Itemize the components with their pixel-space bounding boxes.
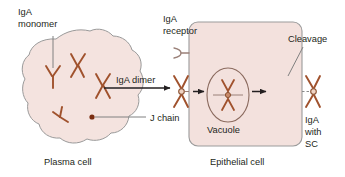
label-epithelial-cell: Epithelial cell bbox=[210, 157, 264, 167]
diagram-canvas: IgA monomer IgA receptor IgA dimer J cha… bbox=[0, 0, 345, 177]
label-j-chain: J chain bbox=[150, 113, 179, 123]
label-iga-with-sc-line1: IgA bbox=[305, 115, 320, 125]
iga-transcytosis-diagram: IgA monomer IgA receptor IgA dimer J cha… bbox=[0, 0, 345, 177]
epithelial-cell-group bbox=[189, 22, 302, 146]
plasma-cell-group bbox=[22, 29, 143, 143]
label-plasma-cell: Plasma cell bbox=[44, 157, 92, 167]
epithelial-cell-body bbox=[189, 22, 302, 146]
plasma-cell-body bbox=[22, 29, 143, 143]
label-iga-with-sc-line3: SC bbox=[305, 139, 318, 149]
label-iga-dimer: IgA dimer bbox=[116, 75, 155, 85]
label-iga-monomer-line1: IgA bbox=[18, 7, 33, 17]
label-iga-monomer-line2: monomer bbox=[18, 19, 57, 29]
label-iga-receptor-line2: receptor bbox=[163, 26, 197, 36]
label-iga-with-sc-line2: with bbox=[304, 127, 322, 137]
label-cleavage: Cleavage bbox=[288, 34, 327, 44]
label-vacuole: Vacuole bbox=[207, 125, 240, 135]
j-chain-dot-icon bbox=[89, 114, 94, 119]
iga-receptor-icon bbox=[174, 48, 189, 58]
label-iga-receptor-line1: IgA bbox=[163, 14, 178, 24]
